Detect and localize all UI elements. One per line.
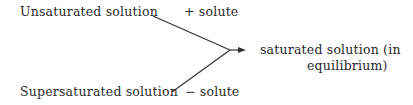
arrowhead-icon — [238, 47, 246, 53]
upper-arrow-line — [153, 16, 230, 50]
convergence-arrows — [0, 0, 413, 105]
lower-arrow-line — [172, 50, 230, 92]
